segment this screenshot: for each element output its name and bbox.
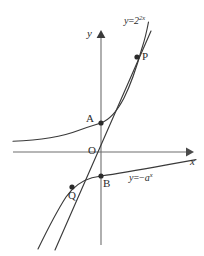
equation-label-exponential: y=22x xyxy=(124,15,145,26)
equation-top-exponent: 2x xyxy=(139,14,145,21)
point-P-marker xyxy=(134,54,139,59)
curve-exponential-2-2x xyxy=(13,22,149,141)
point-label-Q: Q xyxy=(68,190,76,201)
point-label-A: A xyxy=(86,113,94,124)
x-axis xyxy=(13,148,194,157)
math-figure: y x O A P B Q y=22x y=−ax xyxy=(0,0,204,256)
equation-label-negative-exponential: y=−ax xyxy=(129,172,153,183)
diagram-canvas xyxy=(0,0,204,256)
point-A-marker xyxy=(98,120,103,125)
point-label-B: B xyxy=(103,178,110,189)
point-label-P: P xyxy=(142,51,148,62)
y-axis-arrowhead xyxy=(97,30,106,38)
line-secant-QAP xyxy=(55,31,151,250)
y-axis-label: y xyxy=(87,28,92,39)
x-axis-label: x xyxy=(190,156,195,167)
equation-bottom-exponent: x xyxy=(150,171,153,178)
origin-label: O xyxy=(88,145,96,156)
